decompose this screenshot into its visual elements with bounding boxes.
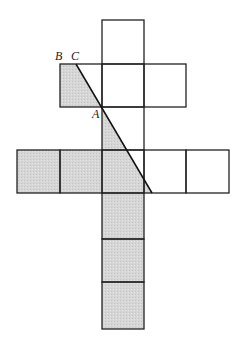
cell-row2-center xyxy=(102,64,144,107)
label-a: A xyxy=(91,107,100,121)
cell-row4-5 xyxy=(186,150,229,193)
shaded-region-row-left-1 xyxy=(17,150,60,193)
cell-row2-right xyxy=(144,64,186,107)
shaded-region-column-bottom xyxy=(102,193,144,329)
label-b: B xyxy=(55,49,63,63)
shaded-region-top-left xyxy=(60,64,102,107)
cell-top xyxy=(102,20,144,64)
shaded-region-row-left-2 xyxy=(60,150,102,193)
label-c: C xyxy=(71,49,80,63)
cell-row4-4 xyxy=(144,150,186,193)
shaded-regions xyxy=(17,64,152,329)
cube-net-diagram: B C A xyxy=(0,0,243,342)
